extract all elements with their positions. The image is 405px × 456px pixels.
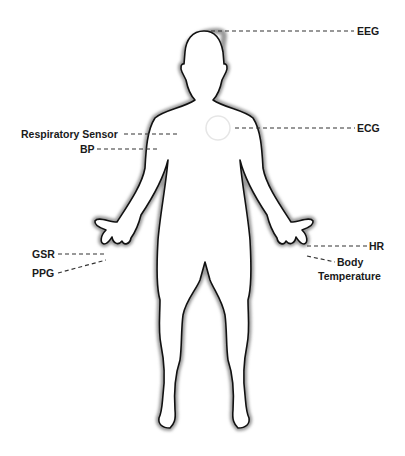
label-ppg: PPG [32, 267, 54, 279]
label-body-temperature-line1: Body [337, 256, 363, 268]
label-bp: BP [80, 143, 95, 155]
label-eeg: EEG [357, 25, 379, 37]
body-outline [95, 31, 313, 428]
ecg-sensor-marker [206, 116, 230, 140]
label-respiratory-sensor: Respiratory Sensor [21, 128, 118, 140]
label-gsr: GSR [32, 248, 55, 260]
body-diagram [0, 0, 405, 456]
label-body-temperature-line2: Temperature [318, 270, 381, 282]
label-ecg: ECG [357, 122, 380, 134]
label-hr: HR [369, 240, 384, 252]
